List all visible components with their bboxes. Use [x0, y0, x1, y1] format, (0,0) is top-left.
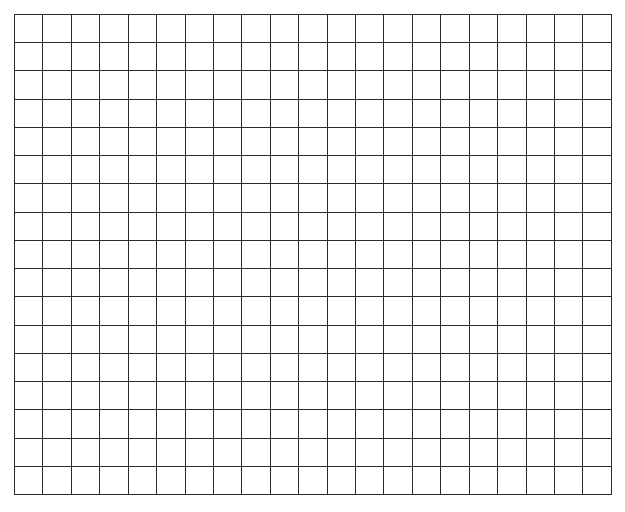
grid-cell[interactable] [43, 43, 71, 71]
grid-cell[interactable] [384, 325, 412, 353]
grid-cell[interactable] [555, 240, 583, 268]
grid-cell[interactable] [270, 353, 298, 381]
grid-cell[interactable] [71, 353, 99, 381]
grid-cell[interactable] [100, 184, 128, 212]
grid-cell[interactable] [157, 212, 185, 240]
grid-cell[interactable] [185, 466, 213, 494]
grid-cell[interactable] [270, 438, 298, 466]
grid-cell[interactable] [100, 212, 128, 240]
grid-cell[interactable] [213, 466, 241, 494]
grid-cell[interactable] [384, 466, 412, 494]
grid-cell[interactable] [412, 99, 440, 127]
grid-cell[interactable] [270, 15, 298, 43]
grid-cell[interactable] [356, 99, 384, 127]
grid-cell[interactable] [213, 212, 241, 240]
grid-cell[interactable] [100, 382, 128, 410]
grid-cell[interactable] [469, 269, 497, 297]
grid-cell[interactable] [441, 353, 469, 381]
grid-cell[interactable] [356, 127, 384, 155]
grid-cell[interactable] [15, 184, 43, 212]
grid-cell[interactable] [157, 127, 185, 155]
grid-cell[interactable] [299, 410, 327, 438]
grid-cell[interactable] [100, 15, 128, 43]
grid-cell[interactable] [412, 43, 440, 71]
grid-cell[interactable] [441, 71, 469, 99]
grid-cell[interactable] [498, 156, 526, 184]
grid-cell[interactable] [157, 269, 185, 297]
grid-cell[interactable] [441, 184, 469, 212]
grid-cell[interactable] [412, 410, 440, 438]
grid-cell[interactable] [213, 438, 241, 466]
grid-cell[interactable] [498, 438, 526, 466]
grid-cell[interactable] [71, 71, 99, 99]
grid-cell[interactable] [384, 438, 412, 466]
grid-cell[interactable] [270, 71, 298, 99]
grid-cell[interactable] [299, 99, 327, 127]
grid-cell[interactable] [299, 438, 327, 466]
grid-cell[interactable] [185, 71, 213, 99]
grid-cell[interactable] [356, 410, 384, 438]
grid-cell[interactable] [384, 382, 412, 410]
grid-cell[interactable] [299, 156, 327, 184]
grid-cell[interactable] [498, 297, 526, 325]
grid-cell[interactable] [185, 410, 213, 438]
grid-cell[interactable] [555, 15, 583, 43]
grid-cell[interactable] [299, 127, 327, 155]
grid-cell[interactable] [299, 184, 327, 212]
grid-cell[interactable] [299, 353, 327, 381]
grid-cell[interactable] [213, 382, 241, 410]
grid-cell[interactable] [384, 43, 412, 71]
grid-cell[interactable] [583, 382, 612, 410]
grid-cell[interactable] [583, 99, 612, 127]
grid-cell[interactable] [213, 43, 241, 71]
grid-cell[interactable] [356, 297, 384, 325]
grid-cell[interactable] [412, 466, 440, 494]
grid-cell[interactable] [498, 240, 526, 268]
grid-cell[interactable] [384, 240, 412, 268]
grid-cell[interactable] [185, 297, 213, 325]
grid-cell[interactable] [128, 410, 156, 438]
grid-cell[interactable] [15, 382, 43, 410]
grid-cell[interactable] [583, 325, 612, 353]
grid-cell[interactable] [526, 240, 554, 268]
grid-cell[interactable] [43, 438, 71, 466]
grid-cell[interactable] [100, 325, 128, 353]
grid-cell[interactable] [157, 184, 185, 212]
grid-cell[interactable] [384, 212, 412, 240]
grid-cell[interactable] [384, 71, 412, 99]
grid-cell[interactable] [185, 353, 213, 381]
grid-cell[interactable] [270, 212, 298, 240]
grid-cell[interactable] [242, 184, 270, 212]
grid-cell[interactable] [441, 43, 469, 71]
grid-cell[interactable] [469, 99, 497, 127]
grid-cell[interactable] [157, 240, 185, 268]
grid-cell[interactable] [469, 156, 497, 184]
grid-cell[interactable] [327, 127, 355, 155]
grid-cell[interactable] [583, 43, 612, 71]
grid-cell[interactable] [213, 71, 241, 99]
grid-cell[interactable] [356, 382, 384, 410]
grid-cell[interactable] [299, 382, 327, 410]
grid-cell[interactable] [128, 15, 156, 43]
grid-cell[interactable] [185, 43, 213, 71]
grid-cell[interactable] [242, 99, 270, 127]
grid-cell[interactable] [384, 99, 412, 127]
grid-cell[interactable] [356, 353, 384, 381]
grid-cell[interactable] [157, 410, 185, 438]
grid-cell[interactable] [242, 297, 270, 325]
grid-cell[interactable] [157, 71, 185, 99]
grid-cell[interactable] [270, 382, 298, 410]
grid-cell[interactable] [213, 297, 241, 325]
grid-cell[interactable] [185, 438, 213, 466]
grid-cell[interactable] [213, 15, 241, 43]
grid-cell[interactable] [128, 127, 156, 155]
grid-cell[interactable] [242, 438, 270, 466]
grid-cell[interactable] [270, 156, 298, 184]
grid-cell[interactable] [128, 438, 156, 466]
grid-cell[interactable] [327, 99, 355, 127]
grid-cell[interactable] [526, 438, 554, 466]
grid-cell[interactable] [15, 297, 43, 325]
grid-cell[interactable] [299, 297, 327, 325]
grid-cell[interactable] [327, 240, 355, 268]
grid-cell[interactable] [412, 156, 440, 184]
